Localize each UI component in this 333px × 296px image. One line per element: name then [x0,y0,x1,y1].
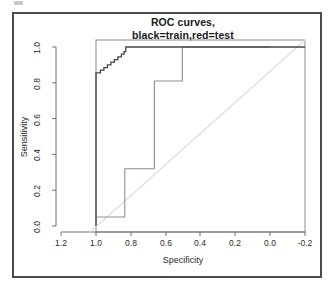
x-tick-label: -0.2 [292,238,318,248]
roc-curve-test [96,47,270,217]
x-axis-label: Specificity [60,255,306,265]
x-tick-label: 1.0 [83,238,109,248]
x-tick-label: 0.8 [118,238,144,248]
x-axis [61,232,305,236]
y-tick-label: 0.8 [32,73,42,95]
y-tick-label: 0.2 [32,180,42,202]
y-axis-label: Sensitivity [19,97,29,177]
x-tick-label: 0.6 [153,238,179,248]
y-axis [52,47,56,226]
roc-plot-canvas [0,0,333,296]
x-tick-label: 0.2 [222,238,248,248]
x-tick-label: 0.4 [187,238,213,248]
axes-frame [96,40,305,232]
plot-box-outline [96,40,305,232]
roc-chart-screenshot: ROC curves, black=train,red=test Specifi… [0,0,333,296]
y-tick-label: 1.0 [32,37,42,59]
y-tick-label: 0.6 [32,109,42,131]
chance-diagonal-line [89,40,305,233]
y-tick-label: 0.4 [32,144,42,166]
x-tick-label: 1.2 [48,238,74,248]
x-tick-label: 0.0 [257,238,283,248]
y-tick-label: 0.0 [32,216,42,238]
